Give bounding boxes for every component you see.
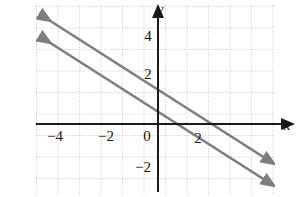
y-axis-label: y bbox=[155, 1, 164, 17]
figure-root: A. bbox=[0, 0, 303, 197]
x-tick-label-neg2: −2 bbox=[98, 128, 114, 144]
x-axis-label: x bbox=[283, 117, 291, 133]
x-tick-label-pos2: 2 bbox=[194, 130, 202, 146]
x-tick-label-neg4: −4 bbox=[47, 128, 63, 144]
y-tick-label-pos2: 2 bbox=[144, 66, 152, 82]
x-tick-label-zero: 0 bbox=[143, 128, 151, 144]
y-tick-label-neg2: −2 bbox=[135, 159, 151, 175]
coordinate-graph: x y −4 −2 0 2 2 4 −2 bbox=[0, 0, 303, 197]
y-tick-label-pos4: 4 bbox=[144, 28, 152, 44]
